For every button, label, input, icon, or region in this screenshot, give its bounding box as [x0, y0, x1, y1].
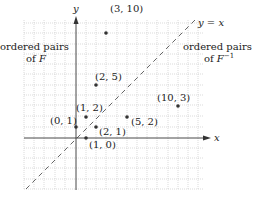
- point-2-5: [94, 83, 98, 87]
- annotation-ordered-pairs-f: ordered pairs of F: [0, 41, 72, 64]
- x-axis-label: x: [214, 132, 220, 143]
- point-label: (1, 0): [89, 139, 116, 150]
- point-10-3: [176, 104, 180, 108]
- x-axis-arrow-icon: [203, 136, 211, 141]
- point-label: (10, 3): [157, 92, 190, 103]
- y-axis-label: y: [72, 3, 79, 14]
- inverse-function-diagram: x y y = x ordered pairs of F ordered pai…: [0, 0, 255, 200]
- point-3-10: [104, 31, 108, 35]
- point-label: (5, 2): [131, 116, 158, 127]
- identity-line-label: y = x: [197, 17, 224, 28]
- point-5-2: [125, 115, 129, 119]
- point-1-2: [84, 115, 88, 119]
- y-axis-arrow-icon: [74, 16, 79, 24]
- point-label: (0, 1): [50, 115, 77, 126]
- point-label: (1, 2): [76, 102, 103, 113]
- point-2-1: [94, 125, 98, 129]
- point-label: (3, 10): [110, 3, 143, 14]
- annotation-ordered-pairs-f-inverse: ordered pairs of F−1: [183, 41, 255, 64]
- point-label: (2, 1): [99, 126, 126, 137]
- point-1-0: [84, 136, 88, 140]
- points: [74, 31, 180, 140]
- point-label: (2, 5): [95, 71, 122, 82]
